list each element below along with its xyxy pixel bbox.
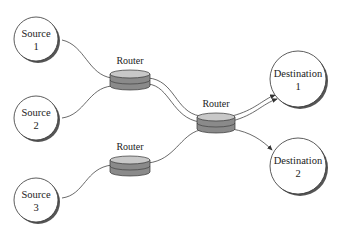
router-2-label: Router	[202, 98, 230, 109]
link-router1-router2-b	[148, 84, 200, 122]
destination-2-node[interactable]: Destination 2	[270, 138, 328, 196]
link-router1-router2-a	[148, 78, 200, 116]
source-3-number: 3	[33, 202, 38, 213]
router-icon	[110, 156, 150, 176]
router-1-label: Router	[116, 55, 144, 66]
destination-1-node[interactable]: Destination 1	[270, 51, 328, 109]
destination-2-number: 2	[295, 168, 300, 179]
link-source1-router1	[62, 40, 112, 78]
source-2-label: Source	[21, 107, 50, 118]
router-2[interactable]: Router	[197, 98, 235, 133]
destination-2-label: Destination	[274, 155, 323, 166]
source-1-label: Source	[21, 28, 50, 39]
link-router3-router2	[148, 130, 200, 163]
router-icon	[197, 113, 235, 133]
source-3-node[interactable]: Source 3	[14, 178, 60, 224]
links	[62, 40, 277, 198]
destination-1-label: Destination	[274, 68, 323, 79]
link-router2-destination1-b	[232, 99, 277, 121]
link-source3-router3	[62, 165, 112, 198]
router-1[interactable]: Router	[110, 55, 150, 90]
router-3[interactable]: Router	[110, 141, 150, 176]
source-2-number: 2	[33, 120, 38, 131]
router-icon	[110, 70, 150, 90]
link-router2-destination2	[232, 129, 272, 150]
source-3-label: Source	[21, 189, 50, 200]
link-router2-destination1-a	[232, 95, 275, 116]
source-1-node[interactable]: Source 1	[14, 17, 60, 63]
network-diagram: Source 1 Source 2 Source 3 Router Router…	[0, 0, 342, 240]
link-source2-router1	[62, 86, 112, 118]
source-2-node[interactable]: Source 2	[14, 96, 60, 142]
destination-1-number: 1	[295, 81, 300, 92]
source-1-number: 1	[33, 41, 38, 52]
router-3-label: Router	[116, 141, 144, 152]
